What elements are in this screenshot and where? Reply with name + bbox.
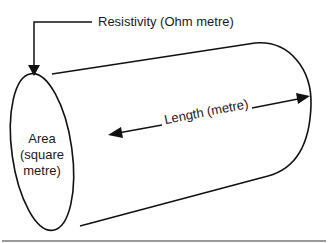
length-arrowhead-right-icon [296,93,310,104]
resistivity-label: Resistivity (Ohm metre) [98,14,234,29]
length-arrow-right-segment [252,99,298,108]
length-arrow-left-segment [118,125,162,133]
area-label-line-3: metre) [16,163,68,179]
area-label-line-2: (square [16,147,68,163]
cylinder-top-edge [52,43,255,74]
area-label: Area (square metre) [16,131,68,179]
cylinder-bottom-edge [80,176,268,226]
resistivity-pointer-line [34,22,92,66]
length-arrowhead-left-icon [108,127,123,138]
area-label-line-1: Area [16,131,68,147]
cylinder-right-end [255,43,311,176]
